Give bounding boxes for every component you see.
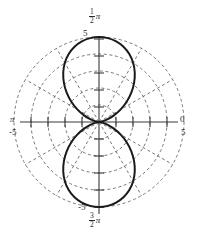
plot-axes	[20, 36, 178, 214]
spoke-30	[99, 80, 173, 123]
radius-label-top-5: 5	[83, 29, 88, 38]
three-halves-pi-symbol: π	[95, 216, 101, 225]
spoke-150	[25, 80, 99, 123]
radius-label-bottom-neg5: -5	[78, 203, 86, 212]
polar-plot-canvas	[0, 0, 198, 232]
spoke-210	[25, 122, 99, 165]
polar-plot-figure: 1 2 π 3 2 π π 0 5 -5 -5 5	[0, 0, 198, 232]
radius-label-right-5: 5	[181, 128, 186, 137]
half-pi-symbol: π	[95, 12, 101, 21]
axis-label-half-pi: 1 2 π	[89, 8, 100, 25]
spoke-330	[99, 122, 173, 165]
axis-label-zero: 0	[180, 115, 185, 124]
radius-label-left-neg5: -5	[9, 128, 17, 137]
axis-label-three-halves-pi: 3 2 π	[89, 212, 100, 229]
axis-label-pi: π	[10, 115, 15, 124]
